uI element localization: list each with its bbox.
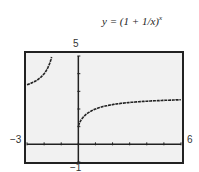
- ymin-label: −1: [70, 162, 81, 172]
- viewing-window-frame: [25, 52, 183, 163]
- graph-window: [0, 0, 199, 172]
- xmax-label: 6: [187, 134, 193, 145]
- xmin-label: −3: [10, 134, 21, 145]
- ymax-label: 5: [73, 38, 79, 49]
